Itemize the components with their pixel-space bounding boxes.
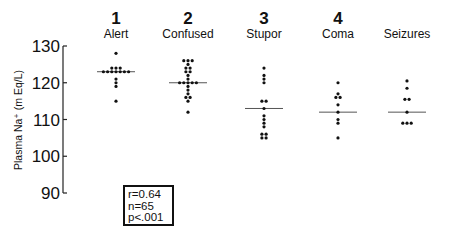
data-point (260, 133, 263, 136)
group-alert: 1Alert (97, 9, 135, 103)
data-point (186, 77, 189, 80)
data-point (186, 100, 189, 103)
data-point (186, 63, 189, 66)
data-point (336, 136, 339, 139)
data-point (127, 70, 130, 73)
group-number: 4 (333, 9, 343, 28)
data-point (408, 98, 411, 101)
y-tick-label: 100 (32, 147, 60, 166)
category-groups: 1Alert2Confused3Stupor4ComaSeizures (97, 9, 430, 139)
y-axis: 90100110120130 (32, 37, 67, 203)
group-stupor: 3Stupor (245, 9, 283, 139)
plasma-sodium-dot-plot: 90100110120130 Plasma Na⁺ (m Eq/L) 1Aler… (0, 0, 463, 233)
data-point (334, 96, 337, 99)
data-point (189, 96, 192, 99)
data-point (262, 122, 265, 125)
y-tick-label: 120 (32, 74, 60, 93)
data-point (184, 96, 187, 99)
data-point (182, 81, 185, 84)
data-point (260, 136, 263, 139)
group-number: 3 (259, 9, 268, 28)
y-axis-label: Plasma Na⁺ (m Eq/L) (12, 70, 24, 170)
group-label: Confused (162, 27, 213, 41)
data-point (403, 98, 406, 101)
data-point (119, 66, 122, 69)
correlation-r: r=0.64 (128, 189, 169, 201)
y-axis-title: Plasma Na⁺ (m Eq/L) (12, 70, 24, 170)
data-point (195, 81, 198, 84)
data-point (405, 111, 408, 114)
data-point (336, 118, 339, 121)
y-tick-label: 130 (32, 37, 60, 56)
p-value: p<.001 (128, 212, 169, 224)
data-point (106, 70, 109, 73)
data-point (184, 70, 187, 73)
data-point (262, 74, 265, 77)
data-point (114, 85, 117, 88)
data-point (262, 81, 265, 84)
data-point (114, 70, 117, 73)
data-point (339, 96, 342, 99)
data-point (336, 103, 339, 106)
data-point (184, 66, 187, 69)
group-coma: 4Coma (319, 9, 357, 139)
data-point (260, 100, 263, 103)
data-point (265, 100, 268, 103)
group-label: Coma (322, 27, 354, 41)
group-number: 2 (183, 9, 192, 28)
data-point (114, 52, 117, 55)
data-point (186, 85, 189, 88)
group-label: Seizures (384, 27, 431, 41)
y-tick-label: 90 (41, 184, 60, 203)
data-point (262, 118, 265, 121)
data-point (186, 81, 189, 84)
data-point (186, 74, 189, 77)
data-point (114, 81, 117, 84)
data-point (114, 66, 117, 69)
group-label: Stupor (246, 27, 281, 41)
data-point (114, 100, 117, 103)
data-point (119, 70, 122, 73)
data-point (178, 81, 181, 84)
data-point (262, 77, 265, 80)
data-point (191, 59, 194, 62)
data-point (114, 77, 117, 80)
data-point (182, 59, 185, 62)
data-point (189, 66, 192, 69)
data-point (262, 114, 265, 117)
data-point (265, 133, 268, 136)
data-point (336, 92, 339, 95)
data-point (405, 79, 408, 82)
data-point (336, 111, 339, 114)
statistics-box: r=0.64 n=65 p<.001 (123, 185, 174, 226)
data-point (110, 70, 113, 73)
data-point (265, 136, 268, 139)
y-tick-label: 110 (33, 111, 60, 130)
data-point (262, 66, 265, 69)
group-number: 1 (111, 9, 120, 28)
data-point (191, 81, 194, 84)
data-point (123, 70, 126, 73)
group-confused: 2Confused (162, 9, 213, 114)
data-point (401, 122, 404, 125)
data-point (410, 122, 413, 125)
group-seizures: Seizures (384, 27, 431, 125)
data-point (189, 70, 192, 73)
group-label: Alert (104, 27, 129, 41)
data-point (110, 66, 113, 69)
data-point (102, 70, 105, 73)
data-point (186, 59, 189, 62)
data-point (405, 87, 408, 90)
data-point (186, 89, 189, 92)
data-point (336, 81, 339, 84)
data-point (186, 92, 189, 95)
data-point (405, 122, 408, 125)
data-point (186, 111, 189, 114)
data-point (262, 125, 265, 128)
data-point (262, 107, 265, 110)
data-point (336, 122, 339, 125)
